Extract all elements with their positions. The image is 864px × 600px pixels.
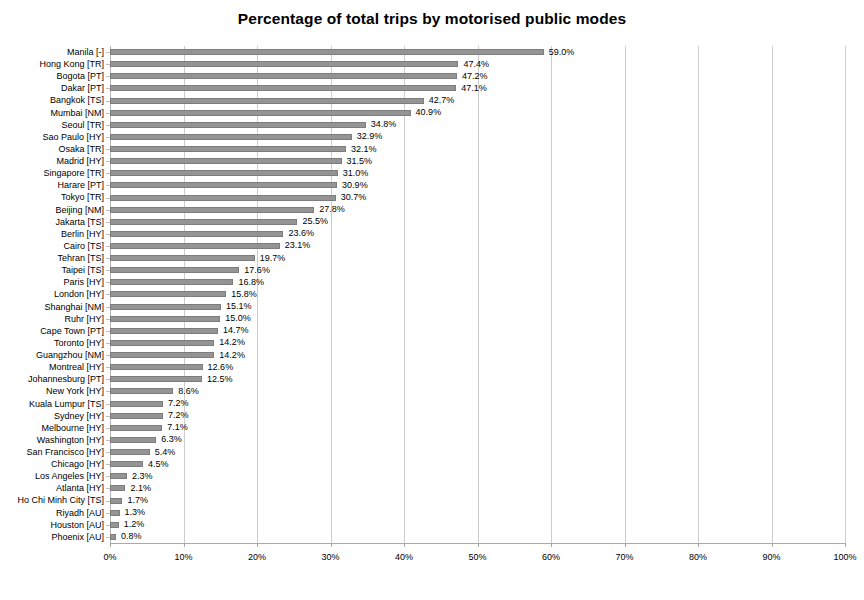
bar-row[interactable]: Singapore [TR]31.0% xyxy=(0,167,864,179)
bar[interactable] xyxy=(110,388,173,394)
bar[interactable] xyxy=(110,267,239,273)
bar[interactable] xyxy=(110,304,221,310)
bar[interactable] xyxy=(110,340,214,346)
category-label: San Francisco [HY] xyxy=(0,446,104,458)
bar-row[interactable]: Dakar [PT]47.1% xyxy=(0,82,864,94)
bar-wrapper: 16.8% xyxy=(110,276,864,288)
bar[interactable] xyxy=(110,449,150,455)
bar[interactable] xyxy=(110,219,297,225)
bar-row[interactable]: Montreal [HY]12.6% xyxy=(0,361,864,373)
bar-value-label: 23.6% xyxy=(288,229,314,238)
bar[interactable] xyxy=(110,207,314,213)
bar-row[interactable]: Shanghai [NM]15.1% xyxy=(0,301,864,313)
bar-row[interactable]: Madrid [HY]31.5% xyxy=(0,155,864,167)
bar[interactable] xyxy=(110,61,458,67)
bar-row[interactable]: Phoenix [AU]0.8% xyxy=(0,531,864,543)
bar[interactable] xyxy=(110,316,220,322)
bar[interactable] xyxy=(110,182,337,188)
bar[interactable] xyxy=(110,146,346,152)
bar-row[interactable]: Hong Kong [TR]47.4% xyxy=(0,58,864,70)
category-label: Washington [HY] xyxy=(0,434,104,446)
category-label: Phoenix [AU] xyxy=(0,531,104,543)
bar[interactable] xyxy=(110,291,226,297)
bar-row[interactable]: Riyadh [AU]1.3% xyxy=(0,507,864,519)
bar-row[interactable]: New York [HY]8.6% xyxy=(0,385,864,397)
bar[interactable] xyxy=(110,413,163,419)
bar[interactable] xyxy=(110,461,143,467)
x-axis-tick-label: 30% xyxy=(301,552,361,562)
bar-value-label: 30.9% xyxy=(342,181,368,190)
bar[interactable] xyxy=(110,401,163,407)
bar-row[interactable]: Jakarta [TS]25.5% xyxy=(0,216,864,228)
bar[interactable] xyxy=(110,376,202,382)
bar-row[interactable]: Toronto [HY]14.2% xyxy=(0,337,864,349)
bar[interactable] xyxy=(110,425,162,431)
bar[interactable] xyxy=(110,170,338,176)
bar-row[interactable]: Ruhr [HY]15.0% xyxy=(0,313,864,325)
bar[interactable] xyxy=(110,49,544,55)
bar-row[interactable]: Kuala Lumpur [TS]7.2% xyxy=(0,398,864,410)
bar[interactable] xyxy=(110,195,336,201)
bar-wrapper: 40.9% xyxy=(110,107,864,119)
category-label: London [HY] xyxy=(0,288,104,300)
bar[interactable] xyxy=(110,243,280,249)
bar-row[interactable]: Taipei [TS]17.6% xyxy=(0,264,864,276)
bar[interactable] xyxy=(110,352,214,358)
bar[interactable] xyxy=(110,473,127,479)
bar[interactable] xyxy=(110,158,342,164)
bar-wrapper: 15.8% xyxy=(110,288,864,300)
bar-value-label: 12.5% xyxy=(207,375,233,384)
bar[interactable] xyxy=(110,485,125,491)
bar-row[interactable]: Sao Paulo [HY]32.9% xyxy=(0,131,864,143)
bar-wrapper: 7.1% xyxy=(110,422,864,434)
bar-row[interactable]: Seoul [TR]34.8% xyxy=(0,119,864,131)
bar-row[interactable]: Chicago [HY]4.5% xyxy=(0,458,864,470)
bar-row[interactable]: Berlin [HY]23.6% xyxy=(0,228,864,240)
bar[interactable] xyxy=(110,134,352,140)
bar-row[interactable]: Washington [HY]6.3% xyxy=(0,434,864,446)
bar-wrapper: 6.3% xyxy=(110,434,864,446)
bar-row[interactable]: Los Angeles [HY]2.3% xyxy=(0,470,864,482)
bar-row[interactable]: Ho Chi Minh City [TS]1.7% xyxy=(0,495,864,507)
bar[interactable] xyxy=(110,85,456,91)
bar-row[interactable]: Bogota [PT]47.2% xyxy=(0,70,864,82)
bar-row[interactable]: Mumbai [NM]40.9% xyxy=(0,107,864,119)
bar-row[interactable]: Cape Town [PT]14.7% xyxy=(0,325,864,337)
bar-row[interactable]: Paris [HY]16.8% xyxy=(0,276,864,288)
bar[interactable] xyxy=(110,534,116,540)
bar-value-label: 19.7% xyxy=(260,254,286,263)
bar-row[interactable]: Sydney [HY]7.2% xyxy=(0,410,864,422)
bar-value-label: 27.8% xyxy=(319,205,345,214)
bar-row[interactable]: Bangkok [TS]42.7% xyxy=(0,94,864,106)
bar[interactable] xyxy=(110,231,283,237)
bar-row[interactable]: San Francisco [HY]5.4% xyxy=(0,446,864,458)
bar[interactable] xyxy=(110,328,218,334)
bar[interactable] xyxy=(110,510,120,516)
bar-row[interactable]: Houston [AU]1.2% xyxy=(0,519,864,531)
bar-row[interactable]: Tokyo [TR]30.7% xyxy=(0,191,864,203)
bar[interactable] xyxy=(110,255,255,261)
bar-value-label: 14.2% xyxy=(219,351,245,360)
bar-row[interactable]: Johannesburg [PT]12.5% xyxy=(0,373,864,385)
bar[interactable] xyxy=(110,73,457,79)
bar-row[interactable]: Tehran [TS]19.7% xyxy=(0,252,864,264)
bar-row[interactable]: Harare [PT]30.9% xyxy=(0,179,864,191)
bar-row[interactable]: Melbourne [HY]7.1% xyxy=(0,422,864,434)
bar[interactable] xyxy=(110,279,233,285)
bar-row[interactable]: Manila [-]59.0% xyxy=(0,46,864,58)
bar-row[interactable]: Osaka [TR]32.1% xyxy=(0,143,864,155)
bar[interactable] xyxy=(110,364,203,370)
bar[interactable] xyxy=(110,522,119,528)
bar-row[interactable]: Cairo [TS]23.1% xyxy=(0,240,864,252)
category-label: Hong Kong [TR] xyxy=(0,58,104,70)
bar-row[interactable]: London [HY]15.8% xyxy=(0,288,864,300)
bar[interactable] xyxy=(110,122,366,128)
bar[interactable] xyxy=(110,437,156,443)
bar-wrapper: 17.6% xyxy=(110,264,864,276)
bar[interactable] xyxy=(110,98,424,104)
bar[interactable] xyxy=(110,498,122,504)
bar-row[interactable]: Atlanta [HY]2.1% xyxy=(0,482,864,494)
bar[interactable] xyxy=(110,110,411,116)
bar-row[interactable]: Beijing [NM]27.8% xyxy=(0,204,864,216)
bar-row[interactable]: Guangzhou [NM]14.2% xyxy=(0,349,864,361)
